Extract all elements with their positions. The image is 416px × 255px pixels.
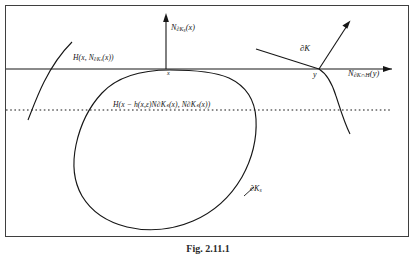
- label-boundary-ks-sub: s: [260, 187, 262, 193]
- figure-container: N∂Ks(x) H(x, N∂Ks(x)) x H(x − h(x,ε)N∂Kₛ…: [0, 0, 416, 255]
- label-normal-vector-at-x: N∂Ks(x): [171, 24, 195, 33]
- figure-caption: Fig. 2.11.1: [0, 243, 416, 255]
- label-hyperplane-post: (x)): [102, 53, 113, 62]
- label-boundary-ks-main: ∂K: [250, 184, 260, 193]
- label-boundary-k: ∂K: [300, 44, 310, 53]
- label-normal-vector-at-y: N∂K∩H(y): [348, 70, 379, 78]
- label-normal-x-arg: (x): [186, 23, 195, 32]
- diagram-canvas: [0, 0, 416, 255]
- figure-frame: [6, 6, 409, 237]
- label-normal-y-sub: ∂K∩H: [354, 72, 370, 78]
- label-hyperplane-pre: H(x, N: [73, 53, 94, 62]
- label-normal-x-sub: ∂K: [177, 26, 184, 32]
- label-normal-y-arg: (y): [370, 69, 380, 78]
- label-boundary-ks: ∂Ks: [250, 185, 262, 194]
- label-hyperplane-shifted: H(x − h(x,ε)N∂Kₛ(x), N∂Kₛ(x)): [113, 101, 210, 109]
- label-point-y: y: [313, 71, 317, 79]
- label-hyperplane-at-x: H(x, N∂Ks(x)): [73, 54, 114, 63]
- label-point-x: x: [167, 70, 170, 76]
